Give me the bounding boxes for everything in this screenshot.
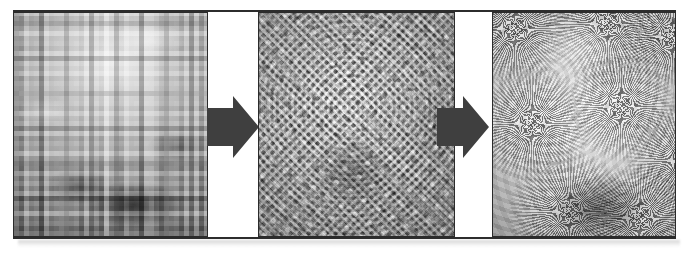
panel-starburst: Radial starburst flower pattern bbox=[492, 12, 676, 237]
panel-halftone: Halftone dot moire pattern bbox=[258, 12, 455, 237]
band-drop-shadow bbox=[18, 240, 680, 247]
blocky-block-noise bbox=[14, 13, 207, 236]
panel-blocky: Blocky pixelated grayscale image bbox=[13, 12, 208, 237]
bottom-rule bbox=[13, 237, 676, 239]
arrow-right-icon-1: transforms into bbox=[207, 96, 259, 158]
starburst-tone-blobs bbox=[493, 13, 675, 236]
halftone-diagonal-moire bbox=[259, 13, 454, 236]
arrow-right-icon-2: transforms into bbox=[437, 96, 489, 158]
figure-container: Blocky pixelated grayscale image transfo… bbox=[0, 0, 694, 255]
